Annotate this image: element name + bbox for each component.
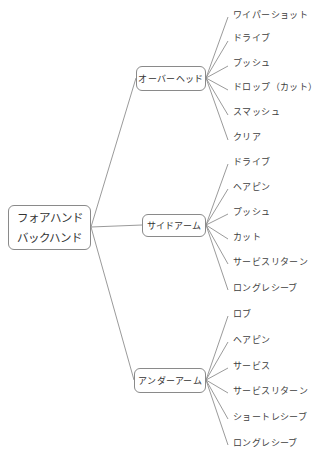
branch-label: サイドアーム	[147, 219, 202, 232]
leaf-node[interactable]: プッシュ	[233, 56, 271, 69]
leaf-node[interactable]: ヘアピン	[233, 333, 271, 346]
leaf-node[interactable]: ドロップ（カット）	[233, 80, 313, 93]
branch-node-sidearm[interactable]: サイドアーム	[142, 214, 206, 237]
leaf-node[interactable]: カット	[233, 230, 261, 243]
leaf-node[interactable]: サービス	[233, 359, 271, 372]
root-label-backhand: バックハンド	[17, 228, 82, 248]
leaf-node[interactable]: クリア	[233, 130, 261, 143]
leaf-node[interactable]: プッシュ	[233, 205, 271, 218]
leaf-node[interactable]: ワイパーショット	[233, 8, 308, 21]
leaf-node[interactable]: サービスリターン	[233, 384, 308, 397]
root-label-forehand: フォアハンド	[17, 208, 83, 228]
leaf-node[interactable]: ショートレシーブ	[233, 410, 307, 423]
root-node[interactable]: フォアハンド バックハンド	[8, 205, 91, 250]
branch-label: アンダーアーム	[138, 374, 202, 387]
leaf-node[interactable]: サービスリターン	[233, 255, 308, 268]
leaf-node[interactable]: ドライブ	[233, 31, 271, 44]
leaf-node[interactable]: ヘアピン	[233, 180, 271, 193]
branch-node-underarm[interactable]: アンダーアーム	[134, 368, 206, 393]
branch-node-overhead[interactable]: オーバーヘッド	[136, 66, 206, 91]
leaf-node[interactable]: スマッシュ	[233, 105, 280, 118]
leaf-node[interactable]: ロングレシーブ	[233, 281, 298, 294]
leaf-node[interactable]: ロングレシーブ	[233, 436, 298, 449]
leaf-node[interactable]: ロブ	[233, 307, 252, 320]
leaf-node[interactable]: ドライブ	[233, 155, 271, 168]
branch-label: オーバーヘッド	[138, 72, 203, 85]
